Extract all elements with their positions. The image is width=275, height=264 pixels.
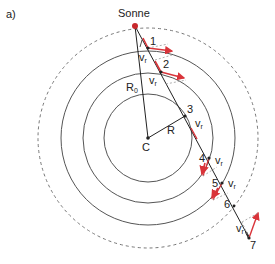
vr-label-1: vr xyxy=(139,52,147,64)
trajectory-line xyxy=(135,26,249,238)
point-label-6: 6 xyxy=(224,199,230,210)
center-label: C xyxy=(142,142,150,153)
diagram-canvas: a) Sonne C R0 R 1 2 3 4 5 6 7 vr vr vr v… xyxy=(0,0,275,264)
vr-label-5: vr xyxy=(228,178,236,190)
point-4 xyxy=(207,156,210,159)
point-2 xyxy=(159,70,162,73)
vr-label-7: vr xyxy=(236,223,244,235)
point-label-5: 5 xyxy=(212,178,218,189)
point-label-7: 7 xyxy=(250,240,256,251)
velocity-arrow-1 xyxy=(148,48,172,51)
center-dot xyxy=(146,136,150,140)
point-6 xyxy=(233,205,236,208)
vr-label-4: vr xyxy=(215,155,223,167)
sun-label: Sonne xyxy=(118,8,150,19)
point-label-4: 4 xyxy=(199,153,205,164)
panel-label: a) xyxy=(6,9,16,20)
orbit-diagram xyxy=(0,0,275,264)
vr-label-3: vr xyxy=(195,118,203,130)
point-5 xyxy=(220,181,223,184)
radius-R-label: R xyxy=(167,125,175,136)
point-label-2: 2 xyxy=(163,59,169,70)
sun-dot xyxy=(132,23,138,29)
radius-R0-label: R0 xyxy=(126,82,138,94)
velocity-arrow-7 xyxy=(249,213,258,238)
vr-label-2: vr xyxy=(149,75,157,87)
point-label-3: 3 xyxy=(187,104,193,115)
vr-arrow-2 xyxy=(155,61,161,72)
point-label-1: 1 xyxy=(150,36,156,47)
